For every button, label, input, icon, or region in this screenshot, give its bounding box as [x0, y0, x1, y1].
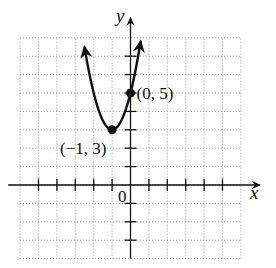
curves [85, 41, 141, 129]
y-axis-label: y [114, 5, 125, 26]
point-y-intercept [126, 89, 135, 98]
x-axis-label: x [249, 182, 259, 203]
parabola-curve [85, 41, 141, 129]
point-label-vertex: (−1, 3) [60, 139, 106, 158]
point-label-y-intercept: (0, 5) [137, 84, 174, 103]
parabola-graph: x y 0 (0, 5) (−1, 3) [0, 0, 276, 268]
origin-label: 0 [118, 187, 127, 206]
point-vertex [108, 125, 117, 134]
